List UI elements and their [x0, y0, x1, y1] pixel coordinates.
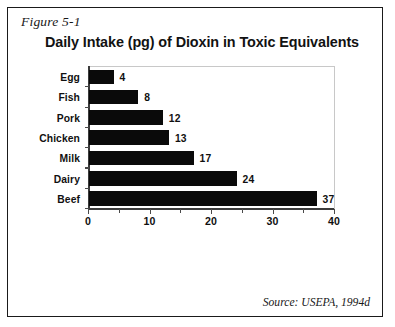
value-axis-tick-major	[334, 209, 335, 214]
bar-category-label: Dairy	[54, 173, 80, 184]
value-axis-tick-minor	[303, 209, 304, 213]
bar-row: Dairy24	[88, 168, 334, 188]
value-axis-tick-label: 30	[267, 215, 279, 227]
value-axis-tick-minor	[242, 209, 243, 213]
bar-value-label: 8	[144, 92, 150, 103]
bar-value-label: 37	[323, 193, 335, 204]
chart-title: Daily Intake (pg) of Dioxin in Toxic Equ…	[8, 34, 382, 50]
value-axis-tick-minor	[180, 209, 181, 213]
bar-row: Chicken13	[88, 128, 334, 148]
bar	[89, 90, 138, 105]
bar-row: Pork12	[88, 108, 334, 128]
source-note: Source: USEPA, 1994d	[263, 296, 370, 309]
bar	[89, 151, 194, 166]
value-axis-tick-label: 0	[85, 215, 91, 227]
bar-category-label: Beef	[57, 193, 80, 204]
value-axis-tick-label: 40	[328, 215, 340, 227]
bar-row: Fish8	[88, 87, 334, 107]
bar-value-label: 17	[200, 153, 212, 164]
bar-value-label: 12	[169, 112, 181, 123]
value-axis-tick-major	[88, 209, 89, 214]
bar-category-label: Pork	[57, 112, 80, 123]
bar-value-label: 24	[243, 173, 255, 184]
bar-category-label: Chicken	[39, 132, 80, 143]
bar	[89, 171, 237, 186]
bar	[89, 70, 114, 85]
bar	[89, 191, 317, 206]
bar-category-label: Milk	[60, 153, 80, 164]
bar-category-label: Fish	[58, 92, 80, 103]
value-axis-tick-major	[150, 209, 151, 214]
value-axis-tick-major	[211, 209, 212, 214]
bar-value-label: 13	[175, 132, 187, 143]
bar-category-label: Egg	[60, 72, 80, 83]
bar-row: Egg4	[88, 67, 334, 87]
figure-caption: Figure 5-1	[21, 14, 81, 30]
value-axis-tick-minor	[119, 209, 120, 213]
figure-frame: Figure 5-1 Daily Intake (pg) of Dioxin i…	[7, 7, 383, 317]
bar	[89, 130, 169, 145]
bar-row: Milk17	[88, 148, 334, 168]
bar-value-label: 4	[120, 72, 126, 83]
value-axis-tick-major	[273, 209, 274, 214]
value-axis-tick-label: 10	[144, 215, 156, 227]
plot-area: Egg4Fish8Pork12Chicken13Milk17Dairy24Bee…	[88, 66, 335, 210]
bar-row: Beef37	[88, 189, 334, 209]
bar	[89, 110, 163, 125]
value-axis-tick-label: 20	[205, 215, 217, 227]
